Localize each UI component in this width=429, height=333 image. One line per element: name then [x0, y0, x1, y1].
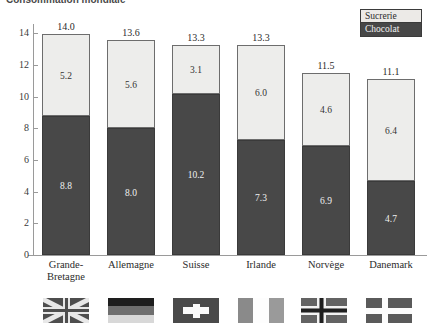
bars-area: 8.85.214.08.05.613.610.23.113.37.36.013.…: [33, 24, 427, 255]
flag-norway: [301, 298, 347, 323]
bar-value-chocolat: 4.7: [368, 214, 414, 224]
bar-value-sucrerie: 6.0: [238, 88, 284, 98]
bar-1[interactable]: 8.85.214.0: [42, 34, 90, 256]
bar-value-sucrerie: 3.1: [173, 65, 219, 75]
y-axis-labels: 14121086420: [0, 0, 29, 333]
bar-total-label: 11.5: [302, 60, 350, 71]
bar-4[interactable]: 7.36.013.3: [237, 45, 285, 255]
bar-segment-sucrerie[interactable]: 3.1: [172, 45, 220, 94]
x-axis-label-line: Suisse: [164, 259, 228, 271]
bar-value-sucrerie: 5.2: [43, 71, 89, 81]
x-axis-label-1: Grande-Bretagne: [34, 259, 98, 283]
x-axis-label-line: Grande-: [34, 259, 98, 271]
y-tick-label: 14: [5, 28, 29, 38]
bar-total-label: 13.3: [172, 32, 220, 43]
y-tick-label: 2: [5, 218, 29, 228]
x-axis-label-line: Danemark: [359, 259, 423, 271]
bar-total-label: 14.0: [42, 21, 90, 32]
legend-item-sucrerie[interactable]: Sucrerie: [361, 10, 421, 23]
bar-2[interactable]: 8.05.613.6: [107, 40, 155, 255]
bar-segment-chocolat[interactable]: 4.7: [367, 181, 415, 255]
y-tick-label: 6: [5, 155, 29, 165]
bar-6[interactable]: 4.76.411.1: [367, 79, 415, 255]
bar-total-label: 13.3: [237, 32, 285, 43]
bar-segment-chocolat[interactable]: 7.3: [237, 140, 285, 256]
bar-segment-sucrerie[interactable]: 5.6: [107, 40, 155, 129]
bar-total-label: 13.6: [107, 27, 155, 38]
bar-segment-chocolat[interactable]: 8.8: [42, 116, 90, 255]
x-axis-label-line: Irlande: [229, 259, 293, 271]
y-tick-label: 12: [5, 60, 29, 70]
bar-segment-chocolat[interactable]: 10.2: [172, 94, 220, 255]
bar-segment-sucrerie[interactable]: 6.4: [367, 79, 415, 180]
legend-label-sucrerie: Sucrerie: [365, 11, 397, 21]
bar-segment-sucrerie[interactable]: 5.2: [42, 34, 90, 116]
flags-row: [33, 298, 427, 330]
flag-united-kingdom: [43, 298, 89, 323]
bar-segment-chocolat[interactable]: 8.0: [107, 128, 155, 255]
x-axis-label-5: Norvège: [294, 259, 358, 271]
flag-germany: [108, 298, 154, 323]
x-axis-category-labels: Grande-BretagneAllemagneSuisseIrlandeNor…: [33, 259, 427, 291]
y-tick-label: 4: [5, 187, 29, 197]
y-tick-label: 10: [5, 92, 29, 102]
bar-value-chocolat: 8.8: [43, 181, 89, 191]
bar-value-chocolat: 7.3: [238, 193, 284, 203]
chart-container: Consommation mondiale Sucrerie Chocolat …: [0, 0, 429, 333]
x-axis-label-4: Irlande: [229, 259, 293, 271]
flag-denmark: [366, 298, 412, 323]
bar-value-sucrerie: 6.4: [368, 126, 414, 136]
bar-value-chocolat: 10.2: [173, 170, 219, 180]
x-axis-label-6: Danemark: [359, 259, 423, 271]
bar-value-chocolat: 6.9: [303, 196, 349, 206]
chart-title-clipped: Consommation mondiale: [6, 0, 306, 4]
bar-value-chocolat: 8.0: [108, 188, 154, 198]
bar-segment-sucrerie[interactable]: 4.6: [302, 73, 350, 146]
y-tick-label: 8: [5, 123, 29, 133]
flag-ireland: [238, 298, 284, 323]
bar-total-label: 11.1: [367, 66, 415, 77]
bar-value-sucrerie: 5.6: [108, 80, 154, 90]
y-tick-label: 0: [5, 250, 29, 260]
x-axis-baseline: [28, 255, 427, 256]
x-axis-label-2: Allemagne: [99, 259, 163, 271]
x-axis-label-3: Suisse: [164, 259, 228, 271]
bar-segment-sucrerie[interactable]: 6.0: [237, 45, 285, 140]
bar-value-sucrerie: 4.6: [303, 105, 349, 115]
flag-switzerland: [173, 298, 219, 323]
y-tick: [33, 255, 38, 256]
bar-segment-chocolat[interactable]: 6.9: [302, 146, 350, 255]
x-axis-label-line: Allemagne: [99, 259, 163, 271]
x-axis-label-line: Bretagne: [34, 271, 98, 283]
bar-3[interactable]: 10.23.113.3: [172, 45, 220, 255]
bar-5[interactable]: 6.94.611.5: [302, 73, 350, 255]
page-title: Consommation mondiale: [6, 0, 306, 4]
x-axis-label-line: Norvège: [294, 259, 358, 271]
